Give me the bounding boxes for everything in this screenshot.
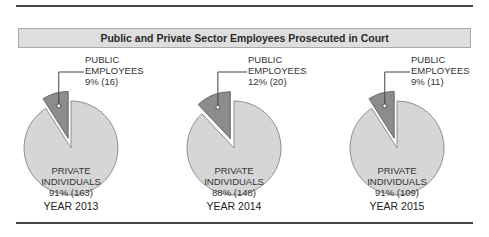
public-employees-label: PUBLICEMPLOYEES12% (20) (248, 54, 307, 87)
bottom-rule (16, 222, 473, 224)
private-individuals-label: PRIVATEINDIVIDUALS88% (148) (183, 165, 285, 198)
pie-chart-2015: PUBLICEMPLOYEES9% (11) PRIVATEINDIVIDUAL… (326, 52, 486, 222)
top-rule (16, 5, 473, 7)
year-label: YEAR 2014 (163, 200, 305, 212)
private-individuals-label: PRIVATEINDIVIDUALS91% (163) (20, 165, 122, 198)
year-label: YEAR 2015 (326, 200, 468, 212)
pie-chart-2013: PUBLICEMPLOYEES9% (16) PRIVATEINDIVIDUAL… (0, 52, 160, 222)
public-employees-label: PUBLICEMPLOYEES9% (16) (85, 54, 144, 87)
private-individuals-label: PRIVATEINDIVIDUALS91% (109) (346, 165, 448, 198)
pie-chart-2014: PUBLICEMPLOYEES12% (20) PRIVATEINDIVIDUA… (163, 52, 323, 222)
chart-title: Public and Private Sector Employees Pros… (18, 28, 471, 48)
year-label: YEAR 2013 (0, 200, 142, 212)
public-employees-label: PUBLICEMPLOYEES9% (11) (411, 54, 470, 87)
